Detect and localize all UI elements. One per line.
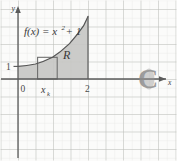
region-label-R: R [62,48,71,62]
function-label-main: f(x) = x [24,25,57,38]
figure-container: y x f(x) = x 2 + 1 R x k 0 1 2 C [0,0,177,161]
x-tick-label-2: 2 [85,84,90,94]
subinterval-label-main: x [40,84,46,95]
scan-artifact-smudge [144,69,155,90]
graph-paper-figure: y x f(x) = x 2 + 1 R x k 0 1 2 C [0,0,177,161]
y-axis-label: y [11,4,16,13]
function-label: f(x) = x 2 + 1 [24,24,81,38]
subinterval-label-subscript: k [47,90,50,97]
x-axis-label: x [167,78,172,87]
function-label-tail: + 1 [66,25,82,37]
origin-tick-label: 0 [21,84,26,94]
y-tick-label-1: 1 [6,62,11,72]
